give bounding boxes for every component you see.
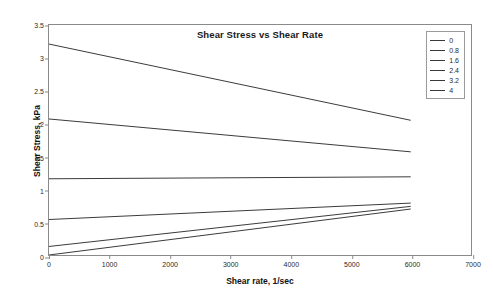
- series-line-4: [49, 209, 411, 255]
- legend-swatch-icon: [430, 90, 445, 91]
- legend-item-2.4[interactable]: 2.4: [430, 65, 459, 75]
- x-tick-label: 7000: [465, 255, 481, 268]
- x-tick-label: 6000: [405, 255, 421, 268]
- series-line-0.8: [49, 119, 411, 152]
- legend-swatch-icon: [430, 80, 445, 81]
- y-tick-label: 2.5: [34, 88, 49, 95]
- y-tick-label: 0.5: [34, 220, 49, 227]
- legend-item-label: 0: [449, 37, 453, 44]
- x-tick-label: 2000: [162, 255, 178, 268]
- legend-swatch-icon: [430, 40, 445, 41]
- series-line-2.4: [49, 203, 411, 219]
- x-tick-label: 4000: [283, 255, 299, 268]
- legend-item-label: 2.4: [449, 67, 459, 74]
- plot-lines: [49, 25, 471, 255]
- series-line-0: [49, 44, 411, 120]
- legend-swatch-icon: [430, 70, 445, 71]
- legend-item-label: 0.8: [449, 47, 459, 54]
- chart-figure: Shear Stress vs Shear Rate Shear Stress,…: [0, 0, 493, 296]
- y-tick-label: 2: [40, 121, 49, 128]
- legend-item-label: 1.6: [449, 57, 459, 64]
- legend-item-0.8[interactable]: 0.8: [430, 45, 459, 55]
- y-tick-label: 1: [40, 187, 49, 194]
- x-tick-label: 0: [47, 255, 51, 268]
- series-line-1.6: [49, 177, 411, 179]
- series-line-3.2: [49, 206, 411, 246]
- x-axis-label: Shear rate, 1/sec: [48, 276, 472, 286]
- legend-item-0[interactable]: 0: [430, 35, 459, 45]
- legend-item-label: 4: [449, 87, 453, 94]
- legend-item-label: 3.2: [449, 77, 459, 84]
- y-tick-label: 3.5: [34, 22, 49, 29]
- legend-swatch-icon: [430, 60, 445, 61]
- legend-item-3.2[interactable]: 3.2: [430, 75, 459, 85]
- legend: 00.81.62.43.24: [426, 31, 465, 99]
- legend-swatch-icon: [430, 50, 445, 51]
- x-tick-label: 3000: [223, 255, 239, 268]
- x-tick-label: 1000: [102, 255, 118, 268]
- legend-item-1.6[interactable]: 1.6: [430, 55, 459, 65]
- plot-area: Shear Stress vs Shear Rate Shear Stress,…: [48, 24, 472, 256]
- y-tick-label: 3: [40, 55, 49, 62]
- y-tick-label: 1.5: [34, 154, 49, 161]
- legend-item-4[interactable]: 4: [430, 85, 459, 95]
- x-tick-label: 5000: [344, 255, 360, 268]
